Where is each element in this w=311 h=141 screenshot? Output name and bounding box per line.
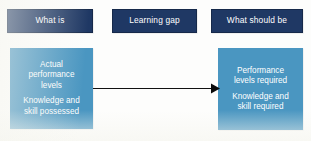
current-state-group-performance: Actual performance levels xyxy=(29,60,75,92)
header-box-what-should-be: What should be xyxy=(211,9,303,33)
header-label-learning-gap: Learning gap xyxy=(129,16,180,25)
current-state-line-3: levels xyxy=(29,81,75,92)
desired-state-line-2: levels required xyxy=(234,76,287,87)
header-box-learning-gap: Learning gap xyxy=(112,9,197,33)
gap-arrow xyxy=(93,80,220,96)
panel-current-state: Actual performance levels Knowledge and … xyxy=(10,48,93,129)
learning-gap-diagram: What is Learning gap What should be Actu… xyxy=(0,0,311,141)
desired-state-group-performance: Performance levels required xyxy=(234,66,287,87)
header-label-what-is: What is xyxy=(36,16,65,25)
panel-desired-state: Performance levels required Knowledge an… xyxy=(218,48,303,130)
current-state-group-knowledge: Knowledge and skill possessed xyxy=(23,96,79,117)
desired-state-group-knowledge: Knowledge and skill required xyxy=(232,92,288,113)
current-state-line-2: performance xyxy=(29,70,75,81)
desired-state-line-4: skill required xyxy=(232,102,288,113)
current-state-line-1: Actual xyxy=(29,60,75,71)
current-state-line-4: Knowledge and xyxy=(23,96,79,107)
header-label-what-should-be: What should be xyxy=(227,16,287,25)
current-state-line-5: skill possessed xyxy=(23,107,79,118)
desired-state-line-3: Knowledge and xyxy=(232,92,288,103)
header-box-what-is: What is xyxy=(7,9,93,33)
desired-state-line-1: Performance xyxy=(234,66,287,77)
